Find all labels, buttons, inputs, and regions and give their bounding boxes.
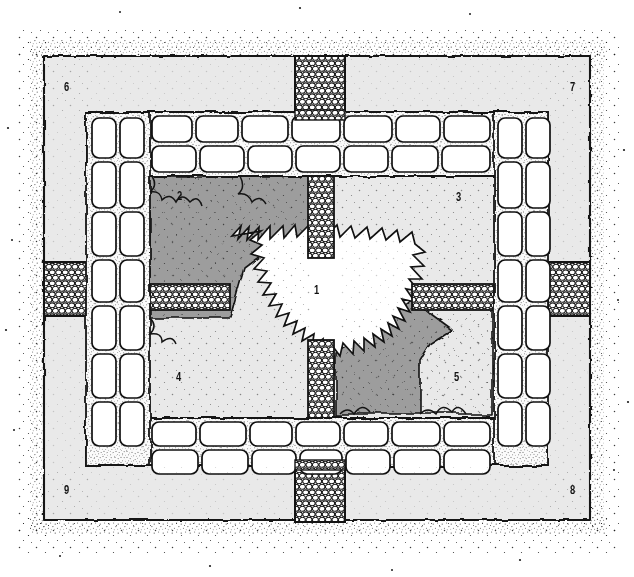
center-cobble-passage-south <box>308 340 334 418</box>
dungeon-map: 1 2 3 4 5 6 7 8 9 <box>0 0 634 577</box>
map-canvas <box>0 0 634 577</box>
